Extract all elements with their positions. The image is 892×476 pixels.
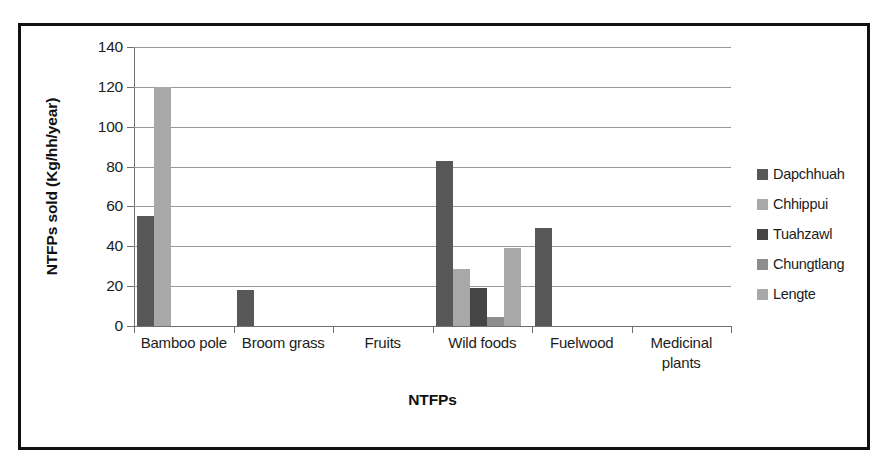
legend-label-lengte: Lengte: [773, 286, 816, 302]
gridline-80: [134, 167, 731, 168]
y-tick-label-20: 20: [106, 277, 123, 295]
y-tick-mark-100: [127, 127, 134, 128]
x-label-bamboo-pole: Bamboo pole: [134, 333, 234, 373]
y-tick-label-0: 0: [115, 317, 123, 335]
gridline-20: [134, 286, 731, 287]
x-tick-mark-0: [134, 326, 135, 333]
x-tick-mark-1: [234, 326, 235, 333]
y-tick-mark-60: [127, 206, 134, 207]
gridline-40: [134, 246, 731, 247]
bar-broom-grass-dapchhuah: [237, 290, 254, 326]
x-tick-mark-5: [632, 326, 633, 333]
legend-swatch-icon-lengte: [757, 289, 768, 300]
figure-frame: NTFPs sold (Kg/hh/year) 1401201008060402…: [18, 23, 870, 450]
bar-wild-foods-tuahzawl: [470, 288, 487, 326]
y-tick-label-100: 100: [98, 118, 123, 136]
y-tick-label-120: 120: [98, 78, 123, 96]
bar-wild-foods-lengte: [504, 248, 521, 326]
x-tick-mark-4: [532, 326, 533, 333]
legend-item-lengte: Lengte: [757, 279, 872, 309]
legend-swatch-icon-tuahzawl: [757, 229, 768, 240]
legend-item-chhippui: Chhippui: [757, 189, 872, 219]
bar-wild-foods-chhippui: [453, 269, 470, 326]
gridline-140: [134, 47, 731, 48]
x-label-fruits: Fruits: [333, 333, 433, 373]
bar-bamboo-pole-chhippui: [154, 87, 171, 326]
y-tick-mark-0: [127, 326, 134, 327]
y-tick-mark-20: [127, 286, 134, 287]
legend-swatch-icon-dapchhuah: [757, 169, 768, 180]
bar-wild-foods-dapchhuah: [436, 161, 453, 326]
legend-swatch-icon-chhippui: [757, 199, 768, 210]
y-tick-label-140: 140: [98, 38, 123, 56]
y-tick-label-80: 80: [106, 158, 123, 176]
x-tick-mark-6: [731, 326, 732, 333]
y-tick-label-60: 60: [106, 197, 123, 215]
legend-item-dapchhuah: Dapchhuah: [757, 159, 872, 189]
bar-wild-foods-chungtlang: [487, 317, 504, 326]
legend-label-dapchhuah: Dapchhuah: [773, 166, 844, 182]
legend-label-chhippui: Chhippui: [773, 196, 828, 212]
chart-legend: DapchhuahChhippuiTuahzawlChungtlangLengt…: [757, 159, 872, 309]
x-label-fuelwood: Fuelwood: [532, 333, 632, 373]
gridline-120: [134, 87, 731, 88]
y-tick-mark-140: [127, 47, 134, 48]
x-label-broom-grass: Broom grass: [234, 333, 334, 373]
gridline-60: [134, 206, 731, 207]
y-tick-mark-40: [127, 246, 134, 247]
x-axis-category-labels: Bamboo poleBroom grassFruitsWild foodsFu…: [134, 333, 731, 373]
y-axis-title: NTFPs sold (Kg/hh/year): [43, 47, 61, 326]
y-tick-mark-120: [127, 87, 134, 88]
x-tick-mark-2: [333, 326, 334, 333]
y-tick-label-40: 40: [106, 237, 123, 255]
bar-fuelwood-dapchhuah: [535, 228, 552, 326]
x-axis-title: NTFPs: [134, 391, 731, 409]
legend-swatch-icon-chungtlang: [757, 259, 768, 270]
x-label-wild-foods: Wild foods: [433, 333, 533, 373]
legend-item-tuahzawl: Tuahzawl: [757, 219, 872, 249]
x-tick-mark-3: [433, 326, 434, 333]
x-label-medicinal-plants: Medicinal plants: [632, 333, 732, 373]
plot-area: 140120100806040200: [134, 47, 731, 326]
legend-label-tuahzawl: Tuahzawl: [773, 226, 832, 242]
y-tick-mark-80: [127, 167, 134, 168]
legend-item-chungtlang: Chungtlang: [757, 249, 872, 279]
legend-label-chungtlang: Chungtlang: [773, 256, 844, 272]
gridline-100: [134, 127, 731, 128]
bar-bamboo-pole-dapchhuah: [137, 216, 154, 326]
